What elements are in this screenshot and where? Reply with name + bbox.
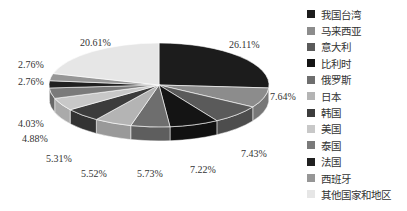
legend-item: 马来西亚 (307, 22, 391, 38)
data-label: 5.31% (46, 153, 72, 164)
legend-swatch (307, 10, 315, 18)
legend-item: 美国 (307, 121, 391, 137)
data-label: 7.43% (241, 148, 267, 159)
legend-label: 韩国 (321, 105, 341, 120)
legend-label: 泰国 (321, 138, 341, 153)
legend-swatch (307, 109, 315, 117)
legend-swatch (307, 59, 315, 67)
legend-item: 其他国家和地区 (307, 186, 391, 202)
legend-swatch (307, 141, 315, 149)
legend: 我国台湾马来西亚意大利比利时俄罗斯日本韩国美国泰国法国西班牙其他国家和地区 (307, 6, 391, 203)
legend-label: 其他国家和地区 (321, 187, 391, 202)
legend-item: 俄罗斯 (307, 72, 391, 88)
legend-item: 西班牙 (307, 170, 391, 186)
data-label: 7.22% (190, 164, 216, 175)
legend-item: 日本 (307, 88, 391, 104)
legend-item: 韩国 (307, 104, 391, 120)
data-label: 5.52% (81, 168, 107, 179)
legend-swatch (307, 92, 315, 100)
legend-item: 比利时 (307, 55, 391, 71)
data-label: 2.76% (18, 76, 44, 87)
legend-label: 西班牙 (321, 171, 351, 186)
legend-item: 法国 (307, 154, 391, 170)
legend-label: 法国 (321, 154, 341, 169)
legend-swatch (307, 174, 315, 182)
legend-swatch (307, 190, 315, 198)
legend-item: 我国台湾 (307, 6, 391, 22)
data-label: 5.73% (137, 168, 163, 179)
legend-swatch (307, 158, 315, 166)
legend-label: 比利时 (321, 56, 351, 71)
legend-label: 马来西亚 (321, 23, 361, 38)
legend-swatch (307, 27, 315, 35)
pie-slice-side (131, 126, 170, 141)
data-label: 4.03% (18, 118, 44, 129)
legend-label: 美国 (321, 121, 341, 136)
legend-swatch (307, 76, 315, 84)
data-label: 20.61% (80, 37, 111, 48)
legend-item: 意大利 (307, 39, 391, 55)
legend-swatch (307, 43, 315, 51)
data-label: 4.88% (22, 133, 48, 144)
legend-label: 俄罗斯 (321, 72, 351, 87)
legend-label: 我国台湾 (321, 7, 361, 22)
data-label: 26.11% (229, 39, 259, 50)
legend-label: 日本 (321, 89, 341, 104)
pie-chart: 26.11%7.64%7.43%7.22%5.73%5.52%5.31%4.88… (0, 0, 300, 211)
legend-label: 意大利 (321, 39, 351, 54)
legend-item: 泰国 (307, 137, 391, 153)
data-label: 7.64% (270, 91, 296, 102)
data-label: 2.76% (18, 59, 44, 70)
legend-swatch (307, 125, 315, 133)
